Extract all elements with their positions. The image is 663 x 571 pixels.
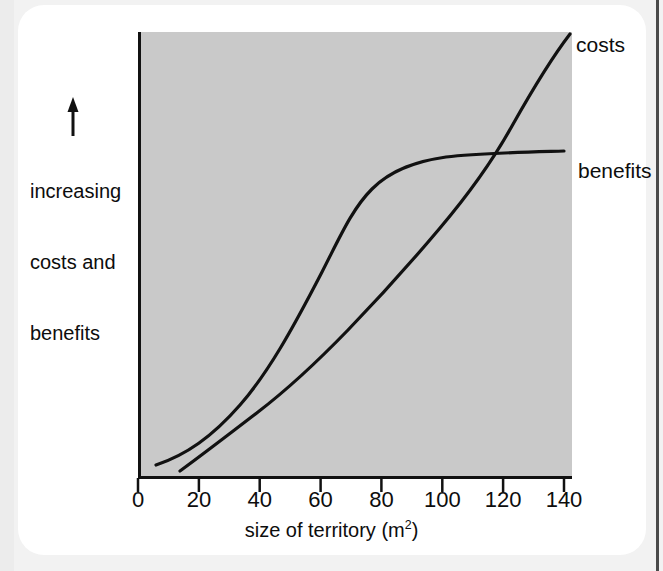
x-tick-label-40: 40 [247, 487, 271, 513]
x-axis-title: size of territory (m2) [0, 519, 663, 543]
increasing-arrow-icon [68, 97, 79, 136]
x-tick-label-20: 20 [187, 487, 211, 513]
series-label-benefits: benefits [578, 159, 652, 184]
line-chart-figure: increasing costs and benefits costs bene… [0, 0, 663, 571]
y-axis-label-line-2: costs and [30, 251, 138, 275]
x-tick-label-60: 60 [308, 487, 332, 513]
x-tick-label-140: 140 [546, 487, 583, 513]
x-tick-label-80: 80 [369, 487, 393, 513]
y-axis-label-line-1: increasing [30, 180, 138, 204]
plot-area-background [138, 32, 572, 478]
series-label-costs: costs [576, 33, 625, 58]
y-axis-label: increasing costs and benefits [30, 133, 138, 393]
x-axis-title-superscript: 2 [405, 518, 412, 532]
y-axis-label-line-3: benefits [30, 322, 138, 346]
x-tick-label-100: 100 [424, 487, 461, 513]
x-tick-label-120: 120 [485, 487, 522, 513]
x-axis-title-base: size of territory (m [245, 519, 405, 541]
x-tick-label-0: 0 [132, 487, 144, 513]
x-axis-title-tail: ) [412, 519, 419, 541]
